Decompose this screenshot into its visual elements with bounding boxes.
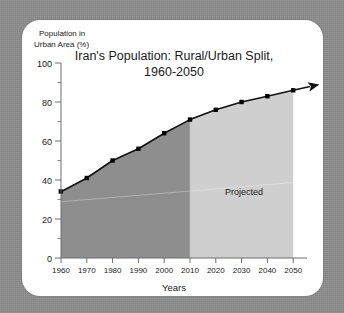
y-tick-label: 40 <box>42 176 52 186</box>
screenshot-root: Population in Urban Area (%) Iran's Popu… <box>0 0 344 313</box>
area-historical <box>61 120 190 258</box>
x-tick-label: 2000 <box>155 266 173 275</box>
y-tick-label: 20 <box>42 215 52 225</box>
x-tick-label: 1980 <box>104 266 122 275</box>
y-axis-label-line1: Population in <box>39 29 85 38</box>
y-axis-label-line2: Urban Area (%) <box>34 40 89 49</box>
data-point-marker <box>136 147 140 151</box>
chart-title-line2: 1960-2050 <box>144 65 204 79</box>
data-point-marker <box>265 94 269 98</box>
data-point-marker <box>214 108 218 112</box>
data-point-marker <box>188 117 192 121</box>
x-tick-label: 2020 <box>207 266 225 275</box>
x-tick-label: 1960 <box>52 266 70 275</box>
area-projected <box>190 90 293 258</box>
y-tick-label: 80 <box>42 98 52 108</box>
x-axis-label: Years <box>162 282 186 293</box>
data-point-marker <box>110 158 114 162</box>
chart-title-line1: Iran's Population: Rural/Urban Split, <box>75 49 273 63</box>
x-tick-label: 2050 <box>284 266 302 275</box>
y-tick-label: 0 <box>47 254 52 264</box>
x-tick-label: 2010 <box>181 266 199 275</box>
chart-card: Population in Urban Area (%) Iran's Popu… <box>22 20 323 296</box>
y-tick-label: 60 <box>42 137 52 147</box>
population-area-chart: Population in Urban Area (%) Iran's Popu… <box>22 20 323 296</box>
x-tick-label: 1990 <box>130 266 148 275</box>
x-tick-label: 2030 <box>233 266 251 275</box>
data-point-marker <box>291 88 295 92</box>
data-point-marker <box>85 176 89 180</box>
data-point-marker <box>162 131 166 135</box>
data-point-marker <box>239 100 243 104</box>
x-tick-label: 2040 <box>259 266 277 275</box>
x-tick-label: 1970 <box>78 266 96 275</box>
y-tick-label: 100 <box>37 59 52 69</box>
projected-annotation: Projected <box>225 187 263 197</box>
